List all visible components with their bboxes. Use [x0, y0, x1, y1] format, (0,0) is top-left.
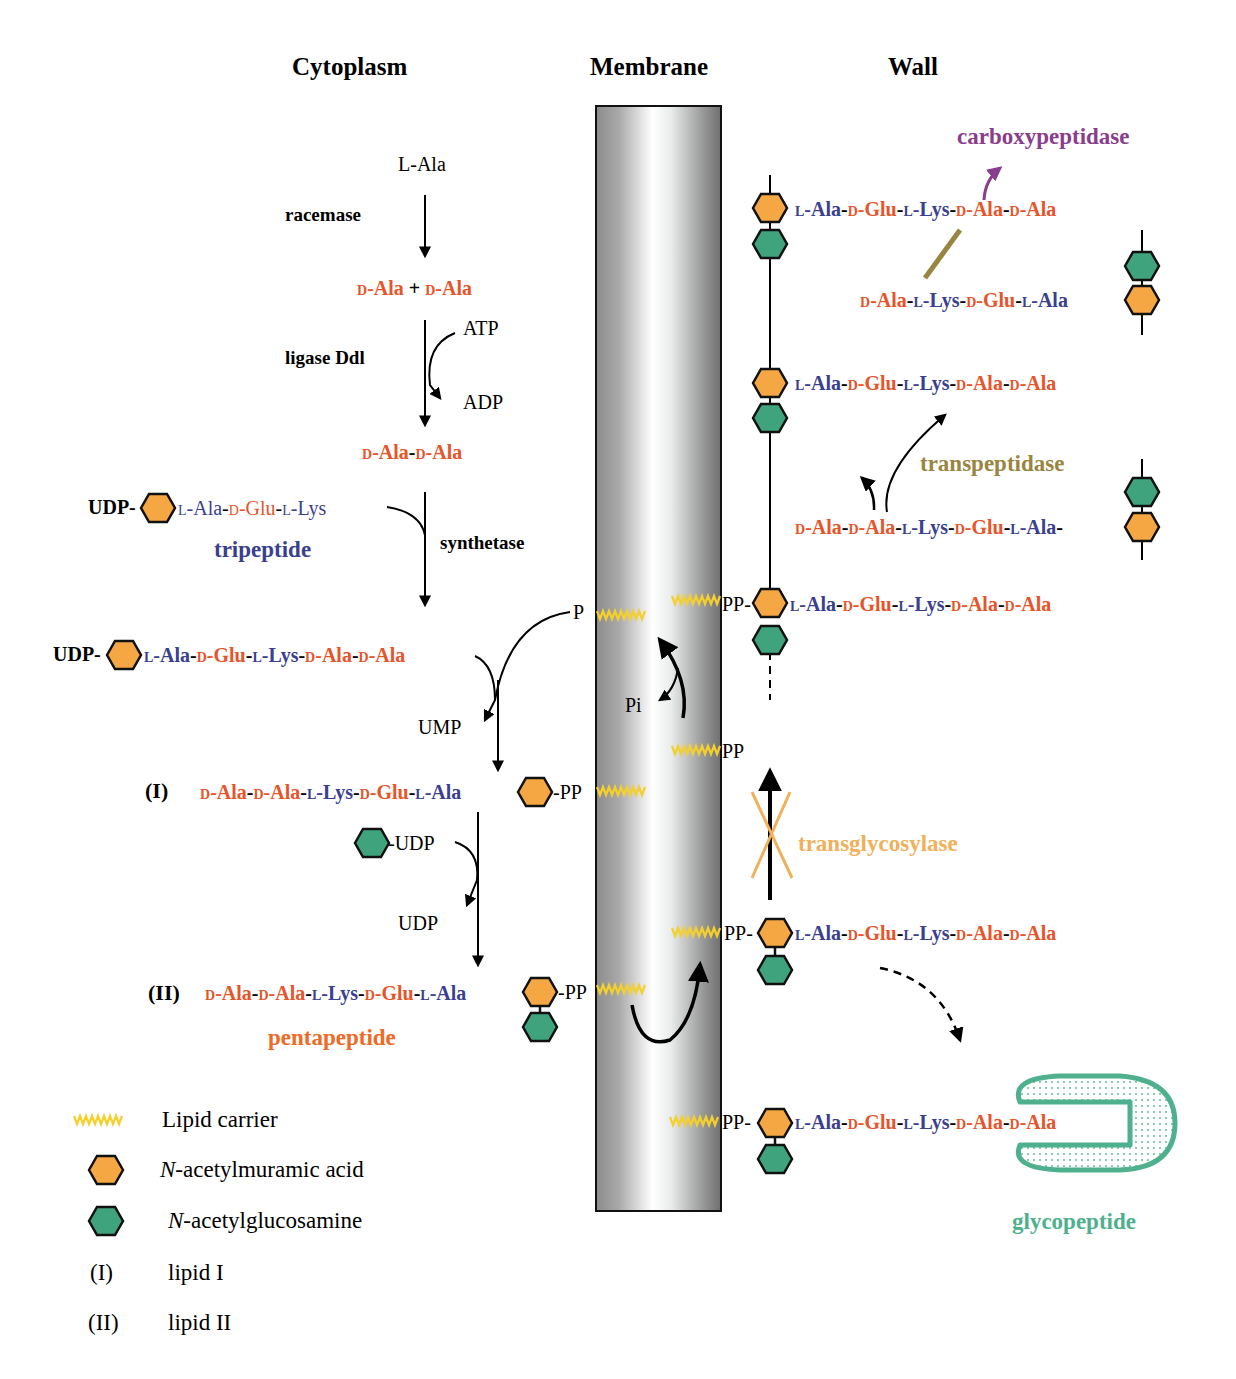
glycopeptide-label: glycopeptide [1012, 1210, 1136, 1233]
wall-chain-3: L-Ala-D-Glu-L-Lys-D-Ala-D-Ala [795, 373, 1056, 393]
pentapeptide-label: pentapeptide [268, 1026, 396, 1049]
adp-label: ADP [463, 392, 503, 412]
transglycosylase-label: transglycosylase [798, 832, 958, 855]
glcnac-udp-label: -UDP [388, 833, 435, 853]
lipid-ii-pp: -PP [558, 982, 587, 1002]
legend-glcnac-text: -acetylglucosamine [183, 1208, 362, 1233]
pp-bottom-label: PP- [722, 1112, 751, 1132]
synthetase-label: synthetase [440, 533, 524, 552]
legend-murnac-italic: N [160, 1157, 175, 1182]
wall-chain-5: L-Ala-D-Glu-L-Lys-D-Ala-D-Ala [790, 594, 1051, 614]
legend-lipid-i: lipid I [168, 1261, 224, 1284]
pp-upper-label: PP- [722, 594, 751, 614]
d-ala-d-ala-dipeptide: D-Ala-D-Ala [362, 442, 462, 462]
carboxypeptidase-label: carboxypeptidase [957, 125, 1130, 148]
udp-tripeptide-chain: L-Ala-D-Glu-L-Lys [178, 498, 326, 518]
udp-release-label: UDP [398, 913, 438, 933]
wall-chain-2: D-Ala-L-Lys-D-Glu-L-Ala [860, 290, 1068, 310]
lipid-i-chain: D-Ala-D-Ala-L-Lys-D-Glu-L-Ala [200, 782, 461, 802]
peptidoglycan-pathway-diagram: Cytoplasm Membrane Wall L-Ala racemase D… [0, 0, 1236, 1379]
udp-prefix-tripeptide: UDP- [88, 497, 136, 517]
racemase-label: racemase [285, 205, 361, 224]
transpeptidase-label: transpeptidase [920, 452, 1064, 475]
header-wall: Wall [888, 54, 938, 79]
legend-lipid-ii: lipid II [168, 1311, 231, 1334]
udp-pentapeptide-chain: L-Ala-D-Glu-L-Lys-D-Ala-D-Ala [144, 645, 405, 665]
l-ala-label: L-Ala [398, 154, 446, 174]
header-membrane: Membrane [590, 54, 708, 79]
ump-label: UMP [418, 717, 461, 737]
pp-lower-label: PP- [724, 923, 753, 943]
wall-chain-1: L-Ala-D-Glu-L-Lys-D-Ala-D-Ala [795, 199, 1056, 219]
udp-prefix-pentapeptide: UDP- [53, 644, 101, 664]
ligase-ddl-label: ligase Ddl [285, 348, 365, 367]
legend-lipid-i-symbol: (I) [90, 1261, 113, 1284]
lipid-i-pp: -PP [553, 782, 582, 802]
membrane-bar [596, 106, 721, 1211]
phosphate-p-label: P [573, 602, 584, 622]
lipid-ii-chain: D-Ala-D-Ala-L-Lys-D-Glu-L-Ala [205, 983, 466, 1003]
legend-lipid-carrier: Lipid carrier [162, 1108, 278, 1131]
atp-label: ATP [463, 318, 499, 338]
legend-glcnac: N-acetylglucosamine [168, 1209, 362, 1232]
header-cytoplasm: Cytoplasm [292, 54, 407, 79]
wall-chain-4: D-Ala-D-Ala-L-Lys-D-Glu-L-Ala- [795, 517, 1063, 537]
pp-middle-label: PP [722, 741, 744, 761]
wall-chain-6: L-Ala-D-Glu-L-Lys-D-Ala-D-Ala [795, 923, 1056, 943]
tripeptide-label: tripeptide [214, 538, 311, 561]
d-ala-plus-d-ala: D-Ala + D-Ala [357, 278, 472, 298]
legend-lipid-ii-symbol: (II) [88, 1311, 119, 1334]
pi-label: Pi [625, 695, 642, 715]
lipid-ii-marker: (II) [148, 982, 180, 1004]
wall-chain-7: L-Ala-D-Glu-L-Lys-D-Ala-D-Ala [795, 1112, 1056, 1132]
legend-murnac: N-acetylmuramic acid [160, 1158, 364, 1181]
legend-murnac-text: -acetylmuramic acid [175, 1157, 363, 1182]
lipid-i-marker: (I) [145, 780, 168, 802]
legend-glcnac-italic: N [168, 1208, 183, 1233]
